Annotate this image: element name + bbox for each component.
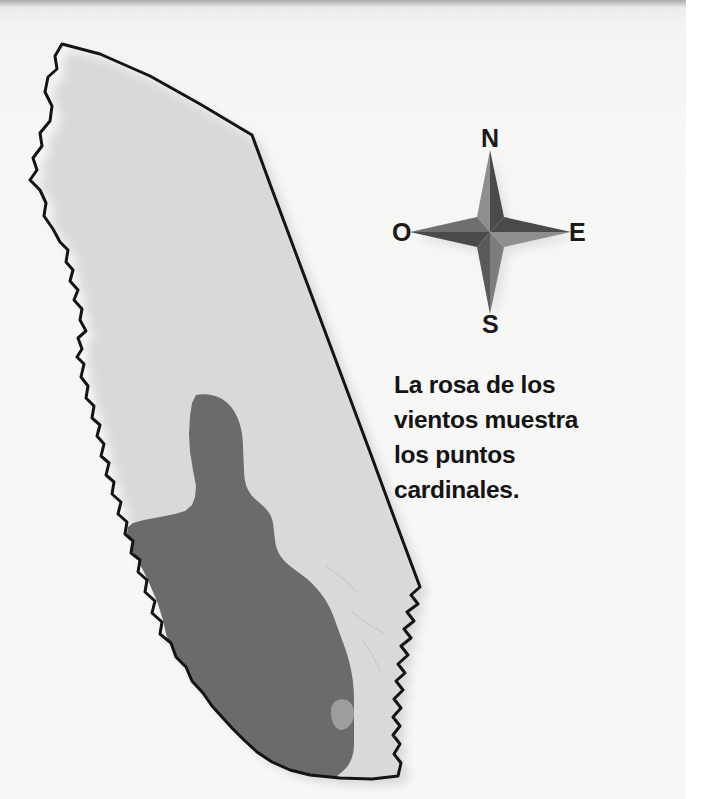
compass-caption: La rosa de los vientos muestra los punto…: [394, 367, 630, 507]
caption-line: La rosa de los: [394, 367, 630, 402]
caption-line: cardinales.: [394, 472, 630, 507]
compass-point-east-bottom: [490, 232, 571, 247]
scanned-page: N S O E La rosa de los vientos muestra l…: [0, 0, 706, 799]
compass-label-south: S: [482, 312, 498, 337]
compass-label-north: N: [481, 126, 499, 151]
compass-rose: N S O E: [392, 122, 592, 342]
compass-label-west: O: [392, 220, 411, 245]
compass-point-east-top: [490, 217, 571, 232]
caption-line: los puntos: [394, 437, 630, 472]
compass-point-west-bottom: [410, 232, 490, 247]
compass-label-east: E: [569, 220, 585, 245]
compass-rose-graphic: [392, 122, 592, 342]
compass-point-west-top: [410, 217, 490, 232]
caption-line: vientos muestra: [394, 402, 630, 437]
